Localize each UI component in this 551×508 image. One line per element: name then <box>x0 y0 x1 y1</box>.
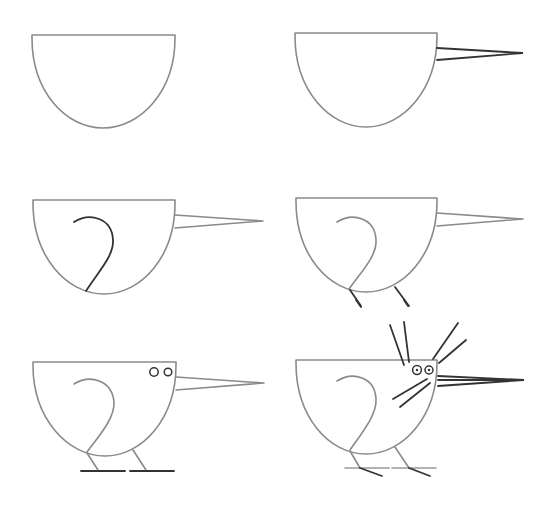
bird-beak <box>437 213 523 226</box>
bird-wing <box>337 376 376 450</box>
step-2-panel <box>295 33 523 127</box>
bird-leg-right <box>133 450 146 470</box>
bird-leg-right <box>395 447 409 468</box>
bird-body <box>32 35 175 128</box>
bird-beak <box>438 376 524 386</box>
bird-body <box>33 200 175 294</box>
foot-right <box>409 468 430 476</box>
bird-wing <box>74 379 114 452</box>
bird-beak <box>175 215 263 228</box>
crest-feather-1 <box>390 325 404 365</box>
drawing-tutorial-canvas <box>0 0 551 508</box>
eye-left-pupil <box>416 369 418 371</box>
step-3-panel <box>33 200 263 294</box>
step-1-panel <box>32 35 175 128</box>
bird-body <box>296 198 437 292</box>
crest-feather-2 <box>404 322 409 362</box>
bird-beak <box>437 48 523 60</box>
step-4-panel <box>296 198 523 306</box>
crest-feather-3 <box>433 323 458 359</box>
eye-right-icon <box>164 368 172 376</box>
eye-right-pupil <box>428 369 430 371</box>
bird-wing <box>74 217 113 291</box>
bird-beak <box>176 377 264 390</box>
bird-body <box>295 33 437 127</box>
eye-left-icon <box>150 368 158 376</box>
step-6-panel <box>296 300 524 476</box>
foot-left <box>360 468 382 476</box>
bird-wing <box>337 217 376 289</box>
step-5-panel <box>33 362 264 471</box>
